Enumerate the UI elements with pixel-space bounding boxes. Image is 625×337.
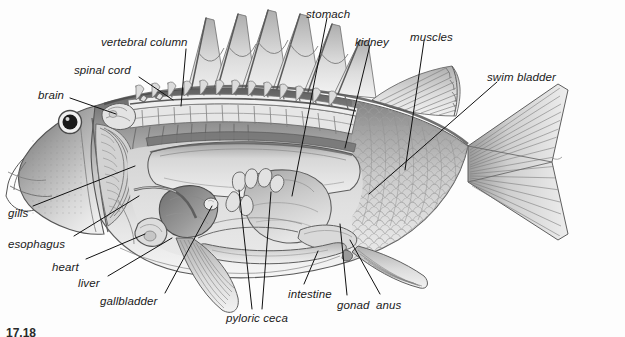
label-intestine: intestine: [288, 289, 332, 301]
label-spinal-cord: spinal cord: [74, 65, 131, 77]
brain: [102, 104, 135, 130]
label-gallbladder: gallbladder: [100, 296, 157, 308]
heart: [135, 218, 167, 246]
label-muscles: muscles: [410, 32, 453, 44]
fish-anatomy-figure: vertebral columnspinal cordbrainstomachk…: [0, 0, 625, 337]
label-stomach: stomach: [306, 9, 350, 21]
label-gonad: gonad: [337, 300, 369, 312]
fish-eye: [59, 111, 82, 134]
label-kidney: kidney: [355, 37, 389, 49]
label-brain: brain: [38, 90, 64, 102]
label-pyloric-ceca: pyloric ceca: [226, 313, 288, 325]
label-anus: anus: [376, 300, 401, 312]
label-heart: heart: [52, 262, 79, 274]
figure-number: 17.18: [6, 326, 36, 337]
label-vertebral-column: vertebral column: [101, 37, 188, 49]
label-gills: gills: [8, 208, 28, 220]
label-swim-bladder: swim bladder: [487, 72, 556, 84]
label-liver: liver: [78, 278, 100, 290]
label-esophagus: esophagus: [8, 239, 65, 251]
